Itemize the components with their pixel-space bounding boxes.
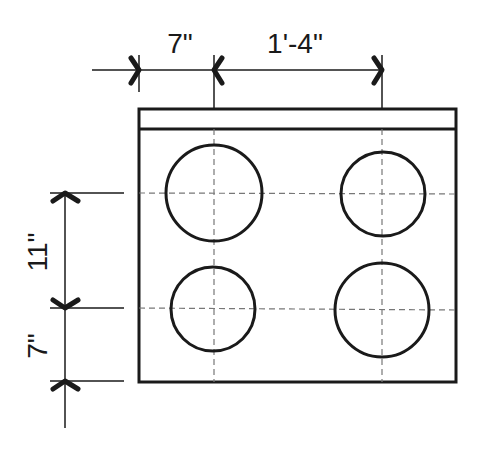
dimension-label-left-bottom: 7"	[22, 333, 53, 359]
centerlines	[139, 129, 456, 382]
burners	[166, 145, 429, 357]
dimension-label-left-spacing: 11"	[22, 232, 53, 271]
dimension-label-top-spacing: 1'-4"	[267, 28, 323, 59]
centerline-bottom	[139, 308, 456, 310]
dimension-label-top-left: 7"	[167, 28, 193, 59]
centerline-top	[139, 193, 456, 194]
left-dimension: 11" 7"	[22, 193, 124, 428]
cooktop-diagram: 7" 1'-4" 11" 7"	[0, 0, 483, 454]
top-dimension: 7" 1'-4"	[92, 28, 382, 109]
